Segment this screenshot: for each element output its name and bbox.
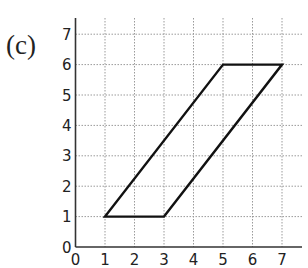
coordinate-grid-plot: 01234567 01234567 bbox=[0, 0, 308, 268]
x-tick-label: 6 bbox=[248, 251, 258, 268]
y-tick-label: 2 bbox=[62, 178, 72, 196]
x-tick-label: 2 bbox=[130, 251, 140, 268]
y-tick-label: 4 bbox=[62, 117, 72, 135]
y-tick-label: 1 bbox=[62, 208, 72, 226]
y-tick-labels: 01234567 bbox=[62, 26, 72, 257]
x-tick-label: 1 bbox=[100, 251, 110, 268]
x-tick-labels: 01234567 bbox=[71, 251, 287, 268]
y-tick-label: 6 bbox=[62, 56, 72, 74]
x-tick-label: 5 bbox=[218, 251, 228, 268]
x-tick-label: 7 bbox=[277, 251, 287, 268]
x-tick-label: 4 bbox=[189, 251, 199, 268]
x-tick-label: 0 bbox=[71, 251, 81, 268]
y-tick-label: 7 bbox=[62, 26, 72, 44]
y-tick-label: 5 bbox=[62, 87, 72, 105]
y-tick-label: 3 bbox=[62, 147, 72, 165]
x-tick-label: 3 bbox=[159, 251, 169, 268]
